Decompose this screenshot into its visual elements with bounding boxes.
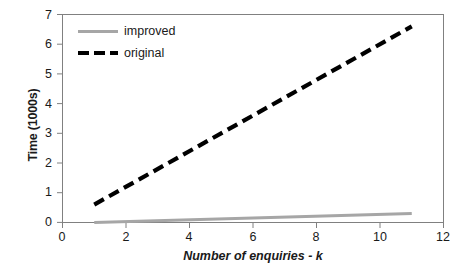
- y-tick-marks: [57, 15, 63, 223]
- legend: improved original: [76, 20, 175, 64]
- legend-item-improved: improved: [76, 20, 175, 42]
- legend-label-original: original: [124, 46, 164, 60]
- plot-area: [0, 0, 463, 274]
- legend-label-improved: improved: [124, 24, 175, 38]
- line-chart: Time (1000s) Number of enquiries - k 7 6…: [0, 0, 463, 274]
- legend-item-original: original: [76, 42, 175, 64]
- legend-swatch-improved-icon: [76, 25, 120, 37]
- x-tick-marks: [63, 223, 444, 229]
- legend-swatch-original-icon: [76, 47, 120, 59]
